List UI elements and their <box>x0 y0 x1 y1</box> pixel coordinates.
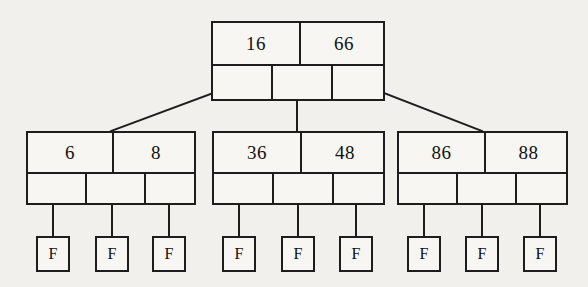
root-key-cell-0: 16 <box>213 23 301 64</box>
internal-left-pointer-row <box>28 174 194 203</box>
internal-node-middle[interactable]: 36 48 <box>212 131 385 205</box>
internal-middle-pointer-row <box>214 174 383 203</box>
internal-middle-pointer-cell-0[interactable] <box>214 174 274 203</box>
internal-left-pointer-cell-0[interactable] <box>28 174 87 203</box>
internal-left-key-cell-1: 8 <box>114 133 198 172</box>
internal-middle-pointer-cell-1[interactable] <box>274 174 334 203</box>
leaf-node[interactable]: F <box>407 236 441 272</box>
internal-node-right[interactable]: 86 88 <box>397 131 568 205</box>
leaf-node[interactable]: F <box>95 236 129 272</box>
internal-right-pointer-cell-2[interactable] <box>517 174 572 203</box>
internal-middle-key-cell-1: 48 <box>302 133 388 172</box>
internal-middle-key-row: 36 48 <box>214 133 383 174</box>
internal-left-key-cell-0: 6 <box>28 133 114 172</box>
internal-left-pointer-cell-1[interactable] <box>87 174 146 203</box>
leaf-node[interactable]: F <box>281 236 315 272</box>
btree-diagram: 16 66 6 8 36 48 <box>0 0 588 287</box>
root-key-row: 16 66 <box>213 23 383 66</box>
internal-right-pointer-cell-0[interactable] <box>399 174 458 203</box>
leaf-node[interactable]: F <box>36 236 70 272</box>
internal-middle-key-cell-0: 36 <box>214 133 302 172</box>
internal-right-key-cell-0: 86 <box>399 133 486 172</box>
root-pointer-cell-0[interactable] <box>213 66 273 99</box>
leaf-node[interactable]: F <box>222 236 256 272</box>
root-pointer-row <box>213 66 383 99</box>
internal-right-pointer-row <box>399 174 566 203</box>
leaf-node[interactable]: F <box>339 236 373 272</box>
internal-right-key-row: 86 88 <box>399 133 566 174</box>
root-node[interactable]: 16 66 <box>211 21 385 101</box>
leaf-node[interactable]: F <box>523 236 557 272</box>
internal-right-pointer-cell-1[interactable] <box>458 174 517 203</box>
leaf-node[interactable]: F <box>465 236 499 272</box>
internal-middle-pointer-cell-2[interactable] <box>334 174 389 203</box>
root-pointer-cell-1[interactable] <box>273 66 333 99</box>
internal-left-key-row: 6 8 <box>28 133 194 174</box>
internal-node-left[interactable]: 6 8 <box>26 131 196 205</box>
internal-left-pointer-cell-2[interactable] <box>146 174 200 203</box>
leaf-node[interactable]: F <box>152 236 186 272</box>
root-pointer-cell-2[interactable] <box>333 66 389 99</box>
root-key-cell-1: 66 <box>301 23 387 64</box>
internal-right-key-cell-1: 88 <box>486 133 571 172</box>
